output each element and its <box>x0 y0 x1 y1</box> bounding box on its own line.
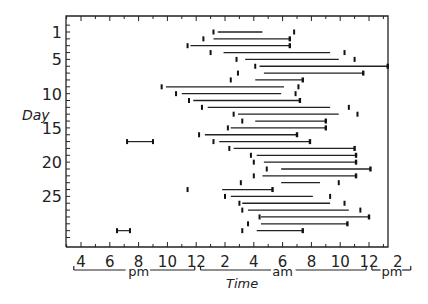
bar-end-cap <box>271 187 273 192</box>
bar-end-cap <box>289 36 291 41</box>
y-tick-label: 20 <box>42 153 62 172</box>
bar-end-cap <box>355 173 357 178</box>
onset-marker <box>202 36 204 41</box>
sleep-bars <box>116 30 389 234</box>
sleep-bar-row <box>227 125 327 130</box>
am-label: am <box>272 264 293 279</box>
sleep-bar-row <box>212 139 311 144</box>
bar-end-cap <box>302 228 304 233</box>
wake-marker <box>297 84 299 89</box>
sleep-bar-row <box>253 160 357 165</box>
sleep-bar-row <box>250 153 357 158</box>
sleep-bar-row <box>188 98 301 103</box>
onset-marker <box>228 146 230 151</box>
onset-marker <box>188 98 190 103</box>
onset-marker <box>247 221 249 226</box>
wake-marker <box>359 208 361 213</box>
sleep-bar-row <box>224 194 331 199</box>
sleep-bar-row <box>161 84 300 89</box>
bar-end-cap <box>369 167 371 172</box>
sleep-bar-row <box>254 64 389 69</box>
onset-marker <box>212 139 214 144</box>
bar-cap <box>116 228 118 233</box>
bar-end-cap <box>362 71 364 76</box>
onset-marker <box>187 43 189 48</box>
sleep-bar-row <box>259 214 371 219</box>
x-tick-label: 4 <box>76 253 86 271</box>
onset-marker <box>187 187 189 192</box>
plot-frame <box>66 16 388 247</box>
wake-marker <box>338 180 340 185</box>
onset-marker <box>227 125 229 130</box>
bar-end-cap <box>346 221 348 226</box>
wake-marker <box>344 50 346 55</box>
onset-marker <box>253 173 255 178</box>
sleep-bar-row <box>116 228 131 233</box>
pm-label: pm <box>128 264 149 279</box>
y-tick-label: 5 <box>52 50 62 69</box>
onset-marker <box>236 57 238 62</box>
sleep-bar-row <box>241 119 327 124</box>
x-tick-label: 10 <box>331 253 350 271</box>
bar-end-cap <box>355 153 357 158</box>
bar-end-cap <box>302 77 304 82</box>
sleep-bar-row <box>198 132 298 137</box>
bar-end-cap <box>296 132 298 137</box>
onset-marker <box>224 194 226 199</box>
onset-marker <box>233 112 235 117</box>
bar-end-cap <box>309 139 311 144</box>
bar-cap <box>126 139 128 144</box>
wake-marker <box>295 91 297 96</box>
y-axis-title: Day <box>22 107 50 123</box>
onset-marker <box>212 30 214 35</box>
y-tick-label: 10 <box>42 85 62 104</box>
bar-cap <box>129 228 131 233</box>
onset-marker <box>253 160 255 165</box>
sleep-bar-row <box>266 167 372 172</box>
sleep-bar-row <box>210 50 346 55</box>
sleep-bar-row <box>212 30 295 35</box>
x-tick-label: 8 <box>307 253 317 271</box>
onset-marker <box>230 77 232 82</box>
onset-marker <box>266 167 268 172</box>
onset-marker <box>241 228 243 233</box>
y-tick-label: 25 <box>42 187 62 206</box>
sleep-bar-row <box>228 146 355 151</box>
onset-marker <box>237 71 239 76</box>
sleep-bar-row <box>241 208 361 213</box>
bar-end-cap <box>368 214 370 219</box>
wake-marker <box>354 57 356 62</box>
sleep-bar-row <box>175 91 297 96</box>
onset-marker <box>198 132 200 137</box>
onset-marker <box>175 91 177 96</box>
sleep-bar-row <box>236 57 356 62</box>
sleep-bar-row <box>202 36 291 41</box>
x-tick-label: 12 <box>359 253 378 271</box>
sleep-bar-row <box>233 112 359 117</box>
bar-end-cap <box>325 119 327 124</box>
x-tick-label: 6 <box>105 253 115 271</box>
bar-end-cap <box>325 125 327 130</box>
sleep-bar-row <box>237 71 364 76</box>
sleep-bar-row <box>240 180 340 185</box>
onset-marker <box>250 153 252 158</box>
bar-end-cap <box>289 43 291 48</box>
onset-marker <box>161 84 163 89</box>
onset-marker <box>238 201 240 206</box>
x-tick-label: 4 <box>249 253 259 271</box>
onset-marker <box>241 208 243 213</box>
x-tick-label: 10 <box>158 253 177 271</box>
x-axis-title: Time <box>226 276 258 291</box>
onset-marker <box>240 180 242 185</box>
sleep-bar-row <box>247 221 349 226</box>
sleep-bar-row <box>230 77 304 82</box>
pm2-label: pm <box>382 264 403 279</box>
wake-marker <box>356 112 358 117</box>
actogram-chart: 1510152025 4681012246810122 pmampm Day T… <box>0 0 428 304</box>
sleep-bar-row <box>253 173 357 178</box>
sleep-bar-row <box>126 139 154 144</box>
bar-end-cap <box>299 98 301 103</box>
onset-marker <box>210 50 212 55</box>
onset-marker <box>254 64 256 69</box>
sleep-bar-row <box>187 187 274 192</box>
